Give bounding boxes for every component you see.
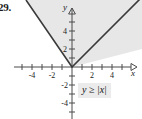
x-tick-label-neg4: -4: [29, 71, 36, 80]
y-tick-label-4: 4: [63, 27, 67, 36]
x-tick-label-2: 2: [90, 71, 94, 80]
y-axis-label: y: [62, 2, 67, 12]
solution-region-fill: [26, 0, 142, 67]
y-tick-label-neg2: -2: [61, 81, 68, 90]
inequality-label: y ≥ |x|: [78, 83, 111, 98]
exercise-number: 29.: [0, 1, 11, 13]
x-tick-label-4: 4: [110, 71, 114, 80]
y-tick-label-2: 2: [63, 45, 67, 54]
coordinate-plane: -4 -2 2 4 4 2 -2 -4 x y: [0, 0, 142, 119]
x-tick-label-neg2: -2: [49, 71, 56, 80]
y-tick-label-neg4: -4: [61, 99, 68, 108]
x-axis-label: x: [130, 68, 135, 78]
figure-container: 29.: [0, 0, 142, 119]
